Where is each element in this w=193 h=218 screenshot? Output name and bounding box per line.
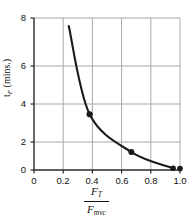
y-tick-label-0: 0: [12, 165, 26, 175]
x-axis-label-denominator: Fmvc: [84, 203, 109, 218]
y-axis-label-symbol: t: [1, 94, 12, 97]
y-tick-label-6: 6: [12, 61, 26, 71]
fraction-bar: [84, 201, 109, 202]
data-point-3: [170, 165, 176, 171]
denominator-symbol: F: [87, 203, 94, 215]
x-axis-label-numerator: FT: [84, 185, 109, 200]
y-tick-label-4: 4: [12, 99, 26, 109]
chart-figure: 8 6 4 2 0 0 0.2 0.4 0.6 0.8 1.0 tF (mins…: [0, 0, 193, 218]
data-point-2: [128, 149, 134, 155]
y-axis-label-units: (mins.): [1, 59, 12, 90]
y-tick-label-2: 2: [12, 137, 26, 147]
numerator-symbol: F: [91, 185, 98, 197]
y-axis-label-subscript: F: [6, 90, 14, 94]
y-axis-label: tF (mins.): [2, 48, 14, 108]
y-tick-label-8: 8: [12, 13, 26, 23]
plot-background: [34, 18, 180, 170]
x-axis-label-fraction: FT Fmvc: [84, 185, 109, 217]
data-point-1: [87, 111, 93, 117]
data-point-4: [177, 166, 183, 172]
numerator-subscript: T: [98, 190, 102, 199]
x-axis-label: FT Fmvc: [0, 185, 193, 217]
denominator-subscript: mvc: [94, 207, 106, 216]
